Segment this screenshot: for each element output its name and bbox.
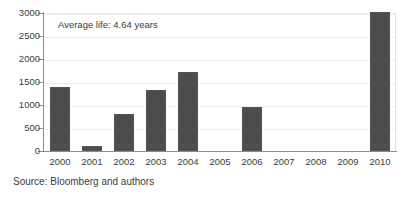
bar: [242, 107, 262, 151]
y-axis-tick-label: 2500: [4, 31, 40, 41]
y-axis-tick-label: 1000: [4, 100, 40, 110]
x-axis-tick-label: 2010: [360, 156, 400, 167]
bar: [178, 72, 198, 151]
bar: [146, 90, 166, 151]
y-axis-tick-label: 1500: [4, 77, 40, 87]
y-axis-tick-label: 500: [4, 123, 40, 133]
source-note: Source: Bloomberg and authors: [13, 176, 154, 188]
y-axis-tick-labels: 050010001500200025003000: [0, 0, 40, 199]
bar: [50, 87, 70, 151]
y-axis-tick-label: 0: [4, 146, 40, 156]
y-axis-tick-label: 3000: [4, 8, 40, 18]
bar: [82, 146, 102, 151]
bar-series: [44, 13, 396, 151]
bar: [370, 12, 390, 151]
bar: [114, 114, 134, 151]
y-axis-tick-label: 2000: [4, 54, 40, 64]
chart-figure: 050010001500200025003000 200020012002200…: [0, 0, 413, 199]
x-axis-tick-labels: 2000200120022003200420052006200720082009…: [44, 156, 396, 172]
x-axis-line: [43, 151, 397, 152]
chart-annotation-average-life: Average life: 4.64 years: [58, 19, 158, 31]
